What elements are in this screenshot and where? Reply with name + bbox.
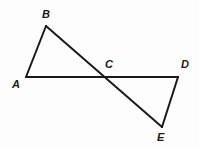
vertex-label-b: B (42, 9, 50, 20)
segment-AB (26, 26, 46, 77)
vertex-label-e: E (157, 132, 164, 143)
vertex-label-d: D (181, 59, 189, 70)
vertex-label-c: C (105, 59, 113, 70)
geometry-diagram (0, 0, 199, 149)
segment-DE (162, 77, 178, 127)
geometry-figure: A B C D E (0, 0, 199, 149)
vertex-label-a: A (12, 79, 20, 90)
